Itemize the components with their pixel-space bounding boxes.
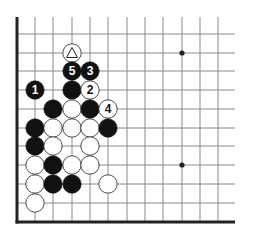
white-stone — [26, 194, 44, 212]
black-stone — [26, 119, 44, 137]
white-stone-icon — [81, 137, 99, 155]
white-stone — [63, 100, 81, 118]
go-board: 53124 — [0, 0, 253, 233]
black-stone: 3 — [81, 62, 99, 80]
black-stone — [44, 100, 62, 118]
black-stone — [81, 100, 99, 118]
black-stone-icon — [44, 175, 62, 193]
black-stone-icon — [99, 119, 117, 137]
black-stone — [99, 119, 117, 137]
white-stone-icon — [63, 156, 81, 174]
white-stone — [63, 44, 81, 62]
black-stone-icon — [81, 100, 99, 118]
white-stone — [26, 156, 44, 174]
white-stone — [44, 119, 62, 137]
black-stone: 5 — [63, 62, 81, 80]
white-stone — [81, 137, 99, 155]
white-stone — [81, 156, 99, 174]
stones: 53124 — [26, 44, 117, 212]
white-stone: 4 — [99, 100, 117, 118]
white-stone-icon — [99, 175, 117, 193]
black-stone — [63, 175, 81, 193]
star-point-icon — [179, 162, 184, 167]
white-stone-icon — [81, 119, 99, 137]
white-stone-icon — [26, 175, 44, 193]
move-number-label: 5 — [69, 64, 76, 78]
black-stone-icon — [26, 137, 44, 155]
move-number-label: 2 — [87, 83, 94, 97]
white-stone-icon — [63, 100, 81, 118]
black-stone: 1 — [26, 81, 44, 99]
white-stone — [63, 119, 81, 137]
black-stone — [44, 175, 62, 193]
black-stone — [26, 137, 44, 155]
black-stone-icon — [26, 119, 44, 137]
white-stone — [81, 119, 99, 137]
white-stone — [99, 175, 117, 193]
white-stone-icon — [26, 156, 44, 174]
white-stone — [26, 175, 44, 193]
white-stone-icon — [81, 156, 99, 174]
move-number-label: 3 — [87, 64, 94, 78]
black-stone-icon — [63, 81, 81, 99]
white-stone-icon — [44, 137, 62, 155]
white-stone-icon — [26, 194, 44, 212]
white-stone — [44, 137, 62, 155]
white-stone — [63, 156, 81, 174]
black-stone — [44, 156, 62, 174]
white-stone-icon — [63, 119, 81, 137]
white-stone: 2 — [81, 81, 99, 99]
black-stone-icon — [44, 100, 62, 118]
move-number-label: 4 — [105, 102, 112, 116]
black-stone-icon — [44, 156, 62, 174]
white-stone-icon — [44, 119, 62, 137]
black-stone-icon — [63, 175, 81, 193]
star-point-icon — [179, 50, 184, 55]
black-stone — [63, 81, 81, 99]
move-number-label: 1 — [32, 83, 39, 97]
